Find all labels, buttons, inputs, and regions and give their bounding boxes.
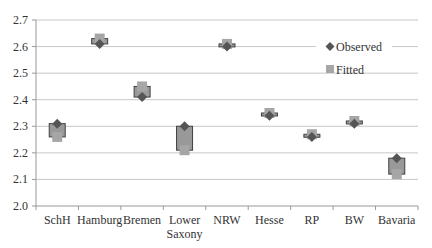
observed-vs-fitted-chart: 2.02.12.22.32.42.52.62.7 SchHHamburgBrem… [0,0,432,248]
legend-observed-label: Observed [336,40,382,54]
y-tick-label: 2.1 [13,172,28,186]
observed-series [52,39,402,163]
y-tick-label: 2.4 [13,93,28,107]
x-tick-label: RP [305,213,320,227]
x-tick-label: Saxony [167,227,203,241]
x-tick-label: Bremen [123,213,161,227]
fitted-square-marker [392,169,402,179]
x-tick-label: Hesse [255,213,284,227]
y-tick-label: 2.7 [13,13,28,27]
fitted-square-marker [52,132,62,142]
x-tick-label: NRW [213,213,241,227]
y-tick-label: 2.0 [13,199,28,213]
x-tick-label: Hamburg [77,213,122,227]
range-boxes [49,39,405,175]
x-tick-label: Lower [169,213,200,227]
x-tick-label: SchH [44,213,71,227]
legend: Observed Fitted [318,40,382,77]
fitted-square-marker [180,145,190,155]
legend-fitted-label: Fitted [336,63,364,77]
y-tick-label: 2.5 [13,66,28,80]
y-tick-label: 2.6 [13,40,28,54]
x-axis: SchHHamburgBremenLowerSaxonyNRWHesseRPBW… [36,206,418,241]
y-tick-label: 2.2 [13,146,28,160]
y-axis: 2.02.12.22.32.42.52.62.7 [13,13,36,213]
fitted-square-marker [137,81,147,91]
x-tick-label: Bavaria [378,213,416,227]
x-tick-label: BW [345,213,365,227]
fitted-series [52,34,402,180]
legend-fitted-square-icon [326,65,334,73]
y-tick-label: 2.3 [13,119,28,133]
